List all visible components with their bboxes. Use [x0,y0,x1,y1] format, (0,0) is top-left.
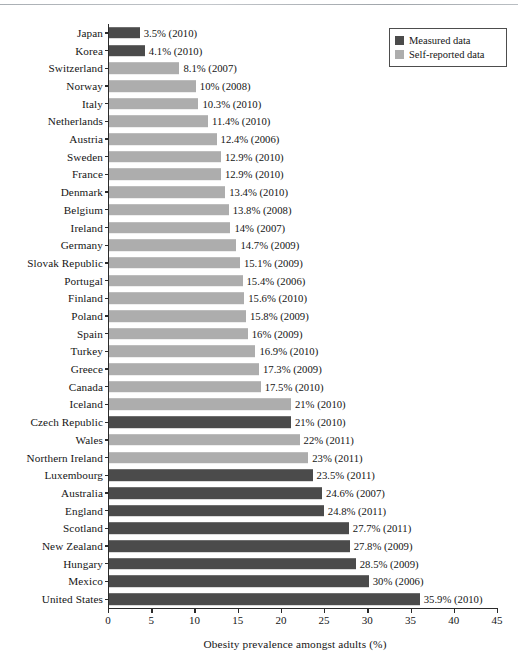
bar-value-label: 23.5% (2011) [317,470,375,481]
bar-value-label: 4.1% (2010) [149,45,202,56]
bar-austria [109,133,216,145]
x-axis-tick-label: 15 [232,614,243,626]
bar-row: Finland15.6% (2010) [0,289,518,307]
y-axis-tick [105,156,109,157]
obesity-prevalence-bar-chart: Japan3.5% (2010)Korea4.1% (2010)Switzerl… [0,0,518,670]
bar-portugal [109,275,242,287]
bar-switzerland [109,62,179,74]
x-axis-tick [151,608,152,613]
bar-value-label: 16% (2009) [252,328,303,339]
category-label-finland: Finland [0,292,103,304]
bar-value-label: 12.9% (2010) [225,169,284,180]
bar-row: Austria12.4% (2006) [0,130,518,148]
y-axis-tick [105,563,109,564]
bar-row: Italy10.3% (2010) [0,95,518,113]
y-axis-tick [105,245,109,246]
x-axis-tick [454,608,455,613]
legend-swatch-measured-icon [395,36,404,45]
bar-row: Netherlands11.4% (2010) [0,112,518,130]
legend-label-measured: Measured data [409,35,471,46]
y-axis-tick [105,50,109,51]
category-label-england: England [0,505,103,517]
bar-value-label: 15.6% (2010) [248,293,307,304]
bar-row: Ireland14% (2007) [0,219,518,237]
bar-value-label: 24.8% (2011) [328,505,386,516]
category-label-denmark: Denmark [0,186,103,198]
bar-value-label: 13.8% (2008) [233,204,292,215]
category-label-norway: Norway [0,80,103,92]
x-axis-tick [497,608,498,613]
category-label-luxembourg: Luxembourg [0,469,103,481]
x-axis-title-text: Obesity prevalence amongst adults (%) [203,638,386,650]
bar-row: Spain16% (2009) [0,325,518,343]
y-axis-tick [105,280,109,281]
bar-row: Wales22% (2011) [0,431,518,449]
category-label-austria: Austria [0,133,103,145]
bar-value-label: 17.5% (2010) [265,381,324,392]
bar-value-label: 21% (2010) [295,417,346,428]
bar-row: Norway10% (2008) [0,77,518,95]
x-axis-tick-label: 5 [148,614,154,626]
bar-slovak-republic [109,257,240,269]
category-label-poland: Poland [0,310,103,322]
y-axis-tick [105,121,109,122]
bar-value-label: 13.4% (2010) [229,187,288,198]
bar-row: Scotland27.7% (2011) [0,520,518,538]
bar-germany [109,239,236,251]
category-label-germany: Germany [0,239,103,251]
bar-value-label: 35.9% (2010) [424,594,483,605]
bar-value-label: 15.4% (2006) [247,275,306,286]
x-axis-tick-label: 40 [448,614,459,626]
x-axis-tick [411,608,412,613]
category-label-italy: Italy [0,98,103,110]
bar-row: Slovak Republic15.1% (2009) [0,254,518,272]
bar-value-label: 11.4% (2010) [212,116,270,127]
bar-value-label: 24.6% (2007) [326,487,385,498]
bar-poland [109,310,246,322]
y-axis-tick [105,422,109,423]
bar-value-label: 28.5% (2009) [360,558,419,569]
bar-value-label: 17.3% (2009) [263,364,322,375]
x-axis-tick-label: 35 [405,614,416,626]
bar-row: Sweden12.9% (2010) [0,148,518,166]
bar-row: Australia24.6% (2007) [0,484,518,502]
category-label-slovak-republic: Slovak Republic [0,257,103,269]
bar-hungary [109,558,355,570]
category-label-scotland: Scotland [0,522,103,534]
bar-row: Greece17.3% (2009) [0,360,518,378]
bar-czech-republic [109,416,291,428]
bar-france [109,169,221,181]
y-axis-tick [105,315,109,316]
y-axis-tick [105,191,109,192]
x-axis-tick [281,608,282,613]
category-label-korea: Korea [0,45,103,57]
category-label-sweden: Sweden [0,151,103,163]
bar-row: Turkey16.9% (2010) [0,343,518,361]
category-label-new-zealand: New Zealand [0,540,103,552]
category-label-mexico: Mexico [0,575,103,587]
category-label-czech-republic: Czech Republic [0,416,103,428]
y-axis-tick [105,545,109,546]
category-label-netherlands: Netherlands [0,115,103,127]
bar-value-label: 10.3% (2010) [202,98,261,109]
y-axis-tick [105,510,109,511]
bar-value-label: 16.9% (2010) [259,346,318,357]
bar-row: Germany14.7% (2009) [0,236,518,254]
x-axis-tick-label: 30 [362,614,373,626]
x-axis-tick-label: 20 [275,614,286,626]
bar-value-label: 12.4% (2006) [221,134,280,145]
y-axis-tick [105,174,109,175]
bar-netherlands [109,116,208,128]
x-axis-tick [324,608,325,613]
bar-row: Luxembourg23.5% (2011) [0,466,518,484]
bar-norway [109,80,195,92]
bar-united-states [109,593,419,605]
legend-item-measured: Measured data [395,34,500,47]
category-label-northern-ireland: Northern Ireland [0,452,103,464]
y-axis-tick [105,68,109,69]
bar-value-label: 22% (2011) [304,434,354,445]
y-axis-tick [105,439,109,440]
y-axis-tick [105,351,109,352]
x-axis-tick-label: 0 [105,614,111,626]
bar-ireland [109,222,230,234]
